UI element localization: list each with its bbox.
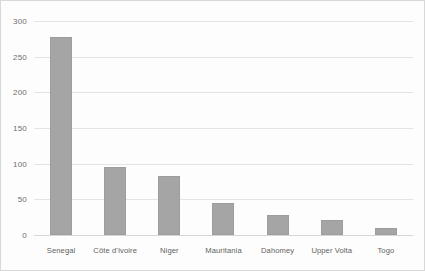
- bar-slot: [359, 21, 413, 235]
- bar[interactable]: [212, 203, 234, 235]
- x-tick-label: Togo: [377, 246, 394, 255]
- bar-series: [34, 21, 413, 235]
- bar-slot: [88, 21, 142, 235]
- x-tick-slot: Upper Volta: [305, 239, 359, 257]
- bar-slot: [251, 21, 305, 235]
- bar-chart-figure: 050100150200250300 SenegalCôte d'IvoireN…: [0, 0, 425, 271]
- bar[interactable]: [50, 37, 72, 235]
- bar-slot: [305, 21, 359, 235]
- x-tick-label: Senegal: [47, 246, 76, 255]
- bar[interactable]: [267, 215, 289, 235]
- bar[interactable]: [375, 228, 397, 235]
- x-tick-slot: Mauritania: [196, 239, 250, 257]
- axis-baseline: [34, 235, 413, 236]
- bar[interactable]: [104, 167, 126, 235]
- bar-slot: [142, 21, 196, 235]
- y-tick-label: 300: [13, 17, 27, 26]
- x-tick-label: Upper Volta: [311, 246, 352, 255]
- y-tick-label: 250: [13, 52, 27, 61]
- bar[interactable]: [321, 220, 343, 235]
- y-axis: 050100150200250300: [1, 21, 32, 235]
- x-tick-label: Mauritania: [205, 246, 241, 255]
- x-tick-slot: Côte d'Ivoire: [88, 239, 142, 257]
- y-tick-label: 150: [13, 124, 27, 133]
- y-tick-label: 100: [13, 159, 27, 168]
- y-tick-label: 200: [13, 88, 27, 97]
- x-tick-slot: Dahomey: [251, 239, 305, 257]
- x-tick-label: Dahomey: [261, 246, 294, 255]
- bar-slot: [34, 21, 88, 235]
- x-axis: SenegalCôte d'IvoireNigerMauritaniaDahom…: [34, 239, 413, 257]
- x-tick-slot: Niger: [142, 239, 196, 257]
- x-tick-label: Côte d'Ivoire: [93, 246, 137, 255]
- x-tick-slot: Senegal: [34, 239, 88, 257]
- y-tick-label: 50: [18, 195, 27, 204]
- y-tick-label: 0: [22, 231, 27, 240]
- bar[interactable]: [158, 176, 180, 235]
- x-tick-slot: Togo: [359, 239, 413, 257]
- x-tick-label: Niger: [160, 246, 179, 255]
- bar-slot: [196, 21, 250, 235]
